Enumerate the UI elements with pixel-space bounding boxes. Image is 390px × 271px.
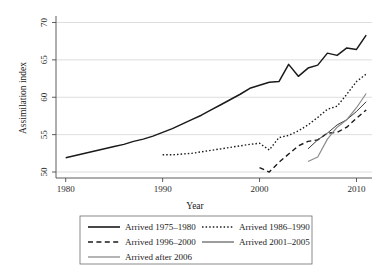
legend-label-4: Arrived after 2006 [125,252,192,262]
x-tick-label-1990: 1990 [154,184,173,194]
x-tick-label-2000: 2000 [251,184,270,194]
legend-label-1: Arrived 1986–1990 [239,222,310,232]
legend-label-2: Arrived 1996–2000 [125,237,196,247]
x-tick-label-2010: 2010 [347,184,366,194]
y-tick-label-65: 65 [39,55,49,64]
y-axis-title: Assimilation index [18,62,28,134]
y-tick-label-70: 70 [39,17,49,27]
legend-label-3: Arrived 2001–2005 [239,237,310,247]
y-tick-label-55: 55 [39,130,49,140]
x-tick-label-1980: 1980 [57,184,76,194]
chart-figure: 50556065701980199020002010 Year Assimila… [0,0,390,271]
x-axis-title: Year [186,201,204,211]
chart-legend: Arrived 1975–1980Arrived 1986–1990Arrive… [80,216,312,264]
y-tick-label-50: 50 [39,167,49,177]
y-tick-label-60: 60 [39,92,49,102]
legend-label-0: Arrived 1975–1980 [125,222,196,232]
assimilation-index-line-chart: 50556065701980199020002010 Year Assimila… [0,0,390,271]
